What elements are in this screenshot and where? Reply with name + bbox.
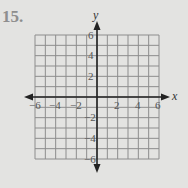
y-tick-label: −4 bbox=[84, 132, 96, 144]
y-axis-label: y bbox=[92, 8, 99, 22]
x-axis-label: x bbox=[171, 89, 178, 103]
y-tick-label: 2 bbox=[88, 70, 94, 82]
y-tick-label: 6 bbox=[88, 29, 94, 41]
x-tick-label: 4 bbox=[135, 99, 141, 111]
y-tick-label: −6 bbox=[84, 153, 96, 165]
y-tick-label: 4 bbox=[88, 49, 94, 61]
y-tick-label: −2 bbox=[84, 111, 96, 123]
coordinate-plane: x y −6 −4 −2 2 4 6 6 4 2 −2 −4 −6 bbox=[0, 0, 188, 188]
x-axis-right-arrow-icon bbox=[161, 94, 170, 101]
x-tick-label: 6 bbox=[155, 99, 161, 111]
x-tick-label: −2 bbox=[70, 99, 82, 111]
x-tick-label: −6 bbox=[29, 99, 41, 111]
x-tick-label: 2 bbox=[114, 99, 120, 111]
y-axis-up-arrow-icon bbox=[94, 21, 101, 30]
x-tick-label: −4 bbox=[49, 99, 61, 111]
y-axis-down-arrow-icon bbox=[94, 164, 101, 173]
